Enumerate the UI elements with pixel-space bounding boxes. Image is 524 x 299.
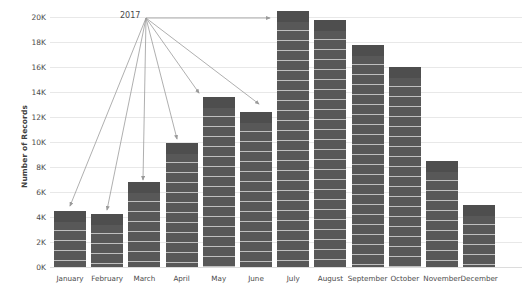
x-axis-tick-label-may: May	[211, 274, 226, 283]
bar-cap	[463, 205, 495, 216]
bar-cap	[240, 112, 272, 123]
bar-september[interactable]	[352, 45, 384, 268]
y-axis-tick-label: 6K	[36, 188, 46, 197]
bar-october[interactable]	[389, 67, 421, 267]
y-axis-tick-label: 20K	[32, 13, 46, 22]
y-axis-title: Number of Records	[20, 77, 29, 217]
x-axis-tick-label-march: March	[133, 274, 155, 283]
bar-cap	[54, 211, 86, 222]
x-axis-tick-label-april: April	[173, 274, 189, 283]
y-axis-tick-label: 12K	[32, 113, 46, 122]
axis-baseline	[50, 267, 522, 268]
annotation-label-2017: 2017	[120, 11, 140, 20]
bar-cap	[166, 143, 198, 154]
bar-june[interactable]	[240, 112, 272, 267]
bar-april[interactable]	[166, 143, 198, 267]
bar-november[interactable]	[426, 161, 458, 267]
x-axis-tick-label-june: June	[248, 274, 264, 283]
y-axis-tick-label: 10K	[32, 138, 46, 147]
bar-february[interactable]	[91, 214, 123, 267]
bar-cap	[314, 20, 346, 31]
y-axis-tick-label: 0K	[36, 263, 46, 272]
y-axis-tick-label: 14K	[32, 88, 46, 97]
bar-chart: Number of Records 0K2K4K6K8K10K12K14K16K…	[0, 0, 524, 299]
x-axis-tick-label-august: August	[318, 274, 343, 283]
bar-cap	[426, 161, 458, 172]
x-axis-tick-label-december: December	[461, 274, 498, 283]
bar-august[interactable]	[314, 20, 346, 268]
y-axis-tick-label: 16K	[32, 63, 46, 72]
y-axis-tick-label: 8K	[36, 163, 46, 172]
bar-cap	[352, 45, 384, 56]
bar-march[interactable]	[128, 182, 160, 267]
plot-area: 0K2K4K6K8K10K12K14K16K18K20K JanuaryFebr…	[50, 0, 524, 299]
x-axis-tick-label-october: October	[390, 274, 419, 283]
x-axis-tick-label-january: January	[56, 274, 83, 283]
x-axis-tick-label-february: February	[91, 274, 123, 283]
bar-cap	[277, 11, 309, 22]
y-axis-tick-label: 4K	[36, 213, 46, 222]
bar-december[interactable]	[463, 205, 495, 268]
x-axis-tick-label-november: November	[423, 274, 460, 283]
bar-cap	[128, 182, 160, 193]
x-axis-tick-label-september: September	[348, 274, 388, 283]
y-axis-tick-label: 18K	[32, 38, 46, 47]
bar-cap	[203, 97, 235, 108]
x-axis-tick-label-july: July	[287, 274, 300, 283]
bar-january[interactable]	[54, 211, 86, 267]
bar-cap	[91, 214, 123, 225]
bar-may[interactable]	[203, 97, 235, 267]
y-axis-tick-label: 2K	[36, 238, 46, 247]
bar-july[interactable]	[277, 11, 309, 267]
bar-cap	[389, 67, 421, 78]
